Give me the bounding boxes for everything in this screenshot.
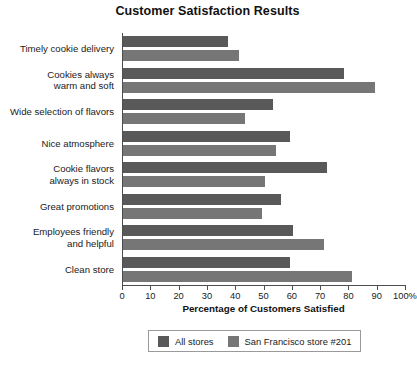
- category-label-line: Nice atmosphere: [0, 138, 114, 150]
- bar: [123, 82, 375, 93]
- bar: [123, 50, 239, 61]
- bar: [123, 145, 276, 156]
- bar: [123, 271, 352, 282]
- bar: [123, 225, 293, 236]
- legend-swatch: [228, 336, 239, 347]
- bar: [123, 68, 344, 79]
- bar: [123, 113, 245, 124]
- bar: [123, 176, 265, 187]
- bar: [123, 257, 290, 268]
- category-label-line: and helpful: [0, 238, 114, 250]
- x-axis-tick: [150, 285, 151, 290]
- x-axis-tick-label: 60: [287, 291, 297, 301]
- category-axis-labels: Timely cookie deliveryCookies alwayswarm…: [0, 33, 118, 285]
- x-axis-tick-label: 50: [258, 291, 268, 301]
- x-axis-tick-label: 30: [202, 291, 212, 301]
- legend-item[interactable]: All stores: [158, 336, 214, 347]
- legend-label: San Francisco store #201: [245, 336, 352, 347]
- category-label: Timely cookie delivery: [0, 43, 114, 55]
- bar: [123, 131, 290, 142]
- legend-label: All stores: [175, 336, 214, 347]
- x-axis-tick: [235, 285, 236, 290]
- x-axis-tick: [377, 285, 378, 290]
- x-axis-tick-label: 10: [145, 291, 155, 301]
- category-label-line: Timely cookie delivery: [0, 43, 114, 55]
- x-axis-tick: [179, 285, 180, 290]
- x-axis-tick: [264, 285, 265, 290]
- category-label-line: Wide selection of flavors: [0, 106, 114, 118]
- x-axis-tick: [320, 285, 321, 290]
- category-label-line: always in stock: [0, 175, 114, 187]
- chart-legend: All storesSan Francisco store #201: [148, 330, 361, 352]
- x-axis-tick-label: 70: [315, 291, 325, 301]
- x-axis-tick-label: 40: [230, 291, 240, 301]
- bar: [123, 162, 327, 173]
- x-axis-tick: [207, 285, 208, 290]
- category-label-line: warm and soft: [0, 80, 114, 92]
- x-axis-tick: [405, 285, 406, 290]
- legend-swatch: [158, 336, 169, 347]
- category-label: Nice atmosphere: [0, 138, 114, 150]
- x-axis-tick-label: 0: [119, 291, 124, 301]
- bar: [123, 239, 324, 250]
- x-axis-tick-label: 20: [173, 291, 183, 301]
- bar: [123, 99, 273, 110]
- category-label-line: Cookie flavors: [0, 163, 114, 175]
- chart-title: Customer Satisfaction Results: [0, 4, 415, 18]
- bar: [123, 194, 281, 205]
- x-axis-tick: [348, 285, 349, 290]
- legend-item[interactable]: San Francisco store #201: [228, 336, 352, 347]
- category-label-line: Great promotions: [0, 201, 114, 213]
- category-label: Employees friendlyand helpful: [0, 226, 114, 249]
- plot-area: 0102030405060708090100%: [122, 33, 405, 285]
- category-label-line: Cookies always: [0, 69, 114, 81]
- category-label: Wide selection of flavors: [0, 106, 114, 118]
- category-label-line: Employees friendly: [0, 226, 114, 238]
- bar: [123, 208, 262, 219]
- x-axis-title: Percentage of Customers Satisfied: [122, 303, 405, 314]
- x-axis-tick: [292, 285, 293, 290]
- bar: [123, 36, 228, 47]
- category-label: Cookie flavorsalways in stock: [0, 163, 114, 186]
- category-label-line: Clean store: [0, 264, 114, 276]
- x-axis-tick-label: 100%: [393, 291, 417, 301]
- x-axis-tick-label: 80: [343, 291, 353, 301]
- category-label: Cookies alwayswarm and soft: [0, 69, 114, 92]
- category-label: Clean store: [0, 264, 114, 276]
- x-axis-tick: [122, 285, 123, 290]
- category-label: Great promotions: [0, 201, 114, 213]
- x-axis-tick-label: 90: [372, 291, 382, 301]
